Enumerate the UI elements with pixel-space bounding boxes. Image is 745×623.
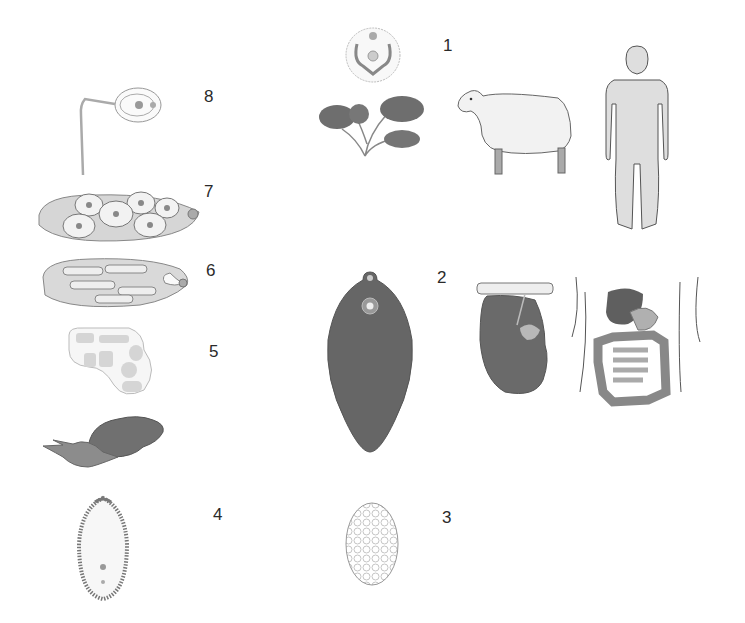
sporocyst-illustration [64,325,164,400]
miracidium-illustration [73,494,133,604]
egg-illustration [344,500,400,588]
redia-with-cercariae-illustration [34,190,204,245]
adult-fluke-illustration [325,270,415,455]
metacercaria-cyst-illustration [343,26,403,84]
stage-number-6: 6 [206,261,215,281]
stage-number-4: 4 [213,505,222,525]
redia-illustration [40,255,190,310]
stage-number-3: 3 [442,508,451,528]
sheep-illustration [453,86,575,176]
stage-number-7: 7 [204,182,213,202]
snail-illustration [43,412,168,474]
human-illustration [602,44,672,234]
cercaria-illustration [75,75,170,180]
stage-number-5: 5 [209,342,218,362]
stage-number-2: 2 [437,268,446,288]
digestive-system-illustration [568,272,713,417]
liver-illustration [475,280,555,400]
aquatic-plant-illustration [317,94,427,159]
stage-number-1: 1 [443,36,452,56]
stage-number-8: 8 [204,87,213,107]
